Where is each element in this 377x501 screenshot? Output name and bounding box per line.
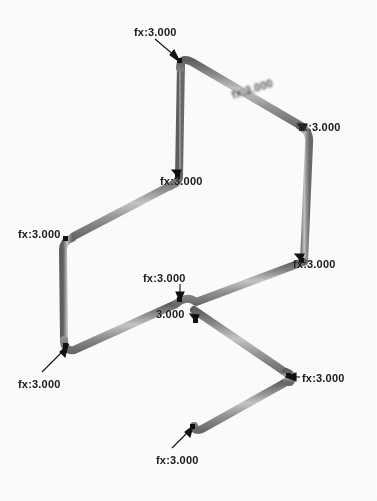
node-load-label: fx:3.000 [134,27,177,38]
node-load-label: fx:3.000 [156,455,199,466]
model-viewport[interactable]: fx:3.000 fx:3.000 fx:3.000 fx:3.000 fx:3… [0,0,377,501]
member-center-to-right [176,262,303,304]
node-load-label: fx:3.000 [298,122,341,133]
node-load-label: fx:3.000 [18,229,61,240]
node-marker-left-upper [63,236,68,241]
arrowhead-triangle-bottom [185,426,193,437]
member-left-column [63,238,72,340]
node-load-label: 3.000 [156,309,185,320]
node-load-label: fx:3.000 [160,176,203,187]
annotation-leaders [42,39,307,448]
node-load-label: fx:3.000 [302,373,345,384]
member-triangle-upper-hyp [194,310,288,374]
beam-structure-wireframe [0,0,377,501]
leader-left-lower [42,352,62,372]
member-triangle-lower-hyp [194,381,288,430]
member-top-left-column [179,63,181,176]
arrowhead-top-apex [170,50,180,62]
member-right-column [300,126,309,262]
node-load-label: fx:3.000 [143,273,186,284]
leader-triangle-bottom [172,432,188,448]
node-load-label: fx:3.000 [293,259,336,270]
node-load-label: fx:3.000 [18,379,61,390]
